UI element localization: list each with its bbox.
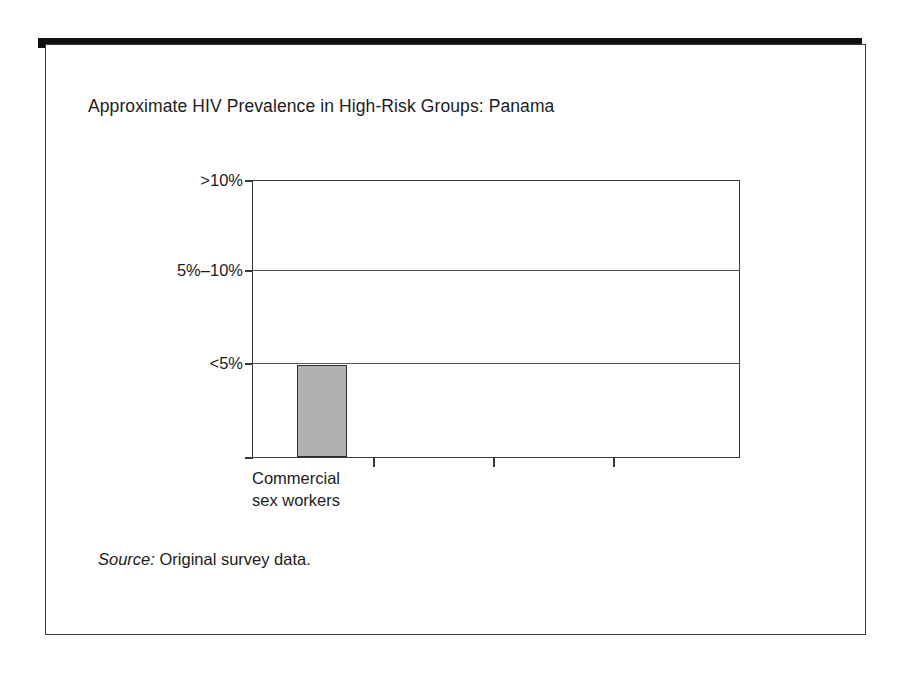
category-label-line-1: Commercial [252, 467, 340, 489]
x-tick-mark-3 [493, 458, 495, 467]
bar-commercial-sex-workers [297, 365, 347, 457]
y-tick-label-gt10: >10% [200, 171, 243, 190]
x-tick-mark-4 [613, 458, 615, 467]
source-note-text: Original survey data. [159, 550, 310, 568]
category-label-line-2: sex workers [252, 489, 340, 511]
y-axis-labels: <5% 5%–10% >10% [60, 0, 243, 674]
source-note: Source: Original survey data. [98, 550, 311, 569]
x-category-label-commercial-sex-workers: Commercial sex workers [252, 467, 340, 511]
source-note-label: Source: [98, 550, 155, 568]
plot-area [252, 180, 740, 458]
gridline-lt5 [253, 363, 739, 364]
gridline-5to10 [253, 270, 739, 271]
x-tick-mark-2 [373, 458, 375, 467]
y-tick-label-5to10: 5%–10% [177, 261, 243, 280]
y-tick-label-lt5: <5% [210, 354, 243, 373]
